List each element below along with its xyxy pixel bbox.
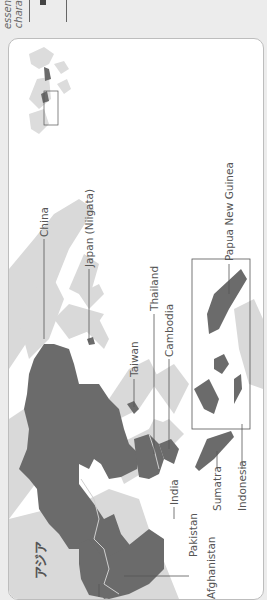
label-papua-new-guinea: Papua New Guinea [223, 162, 235, 261]
header-text-line1: essen [2, 0, 13, 29]
label-sumatra: Sumatra [211, 466, 223, 511]
map-title: アジア [33, 541, 48, 579]
asia-map: China Japan (Niigata) Taiwan Thailand Ca… [9, 39, 263, 599]
icon-fragment [40, 0, 46, 5]
header-text-line2: chara [13, 0, 24, 28]
world-locator-inset [29, 47, 71, 134]
label-japan: Japan (Niigata) [83, 189, 95, 268]
asia-map-card: China Japan (Niigata) Taiwan Thailand Ca… [8, 38, 264, 600]
label-afghanistan: Afghanistan [205, 536, 217, 599]
label-cambodia: Cambodia [163, 304, 175, 357]
divider [66, 0, 67, 22]
label-thailand: Thailand [148, 266, 160, 312]
label-indonesia: Indonesia [236, 460, 248, 511]
label-taiwan: Taiwan [128, 341, 140, 378]
label-china: China [38, 207, 50, 237]
label-pakistan: Pakistan [187, 513, 199, 557]
divider [29, 0, 30, 22]
label-india: India [168, 479, 180, 505]
page-header-fragment: essen chara [0, 0, 267, 34]
